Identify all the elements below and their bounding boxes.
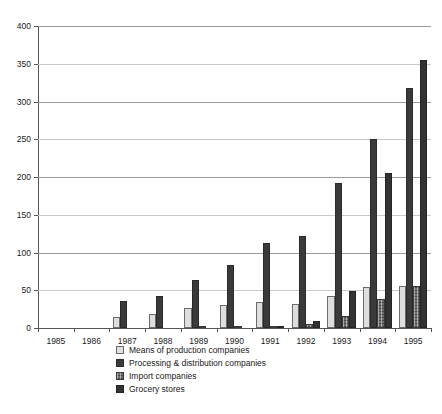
bar-group — [77, 26, 106, 328]
y-tick-label: 300 — [17, 97, 31, 107]
bar-group — [113, 26, 142, 328]
y-tick-label: 200 — [17, 172, 31, 182]
x-tick-mark — [324, 328, 325, 332]
y-tick-mark — [34, 177, 38, 178]
bar — [313, 321, 320, 328]
bar — [277, 326, 284, 328]
bar — [399, 286, 406, 328]
bar — [156, 296, 163, 328]
bar — [420, 60, 427, 328]
x-tick-mark — [288, 328, 289, 332]
x-tick-label: 1994 — [368, 336, 387, 346]
bar — [385, 173, 392, 328]
bar-group — [42, 26, 71, 328]
y-tick-mark — [34, 102, 38, 103]
legend-swatch-icon — [116, 359, 124, 367]
y-tick-label: 50 — [22, 285, 31, 295]
x-tick-mark — [145, 328, 146, 332]
x-tick-mark — [181, 328, 182, 332]
bar — [263, 243, 270, 328]
plot-area: 050100150200250300350400 198519861987198… — [38, 26, 431, 328]
y-tick-label: 100 — [17, 248, 31, 258]
y-tick-mark — [34, 290, 38, 291]
y-tick-mark — [34, 215, 38, 216]
bar — [220, 305, 227, 328]
legend-item: Processing & distribution companies — [116, 357, 266, 369]
y-tick-mark — [34, 253, 38, 254]
legend-label: Import companies — [129, 372, 197, 381]
legend-item: Means of production companies — [116, 344, 266, 356]
legend-swatch-icon — [116, 385, 124, 393]
bar — [363, 287, 370, 328]
bar — [327, 296, 334, 328]
x-tick-mark — [217, 328, 218, 332]
bar-chart: 050100150200250300350400 198519861987198… — [0, 0, 442, 414]
bar-group — [363, 26, 392, 328]
legend-item: Grocery stores — [116, 383, 266, 395]
x-tick-label: 1992 — [296, 336, 315, 346]
legend-label: Means of production companies — [129, 346, 250, 355]
bar — [234, 326, 241, 328]
y-tick-label: 0 — [26, 323, 31, 333]
x-tick-label: 1995 — [404, 336, 423, 346]
y-tick-mark — [34, 64, 38, 65]
x-tick-mark — [395, 328, 396, 332]
x-tick-mark — [431, 328, 432, 332]
y-tick-mark — [34, 139, 38, 140]
bar — [342, 316, 349, 328]
x-tick-label: 1985 — [46, 336, 65, 346]
bar — [227, 265, 234, 328]
bar — [370, 139, 377, 329]
bar — [292, 304, 299, 328]
x-axis-line — [38, 328, 431, 329]
bar — [199, 326, 206, 328]
bar — [192, 280, 199, 328]
bar-group — [327, 26, 356, 328]
bar — [349, 291, 356, 328]
bar — [184, 308, 191, 328]
x-tick-mark — [109, 328, 110, 332]
bar-group — [399, 26, 428, 328]
x-tick-mark — [74, 328, 75, 332]
x-tick-mark — [252, 328, 253, 332]
y-tick-label: 250 — [17, 134, 31, 144]
bar — [120, 301, 127, 328]
bar — [306, 324, 313, 328]
legend-item: Import companies — [116, 370, 266, 382]
legend-label: Grocery stores — [129, 385, 185, 394]
bar-group — [220, 26, 249, 328]
bar — [335, 183, 342, 328]
bar-group — [256, 26, 285, 328]
bar — [377, 299, 384, 328]
bar — [149, 314, 156, 328]
bar — [299, 236, 306, 328]
bar — [113, 317, 120, 328]
chart-legend: Means of production companiesProcessing … — [116, 344, 266, 396]
legend-label: Processing & distribution companies — [129, 359, 266, 368]
y-tick-label: 400 — [17, 21, 31, 31]
x-tick-mark — [38, 328, 39, 332]
bar-group — [292, 26, 321, 328]
bar — [270, 326, 277, 328]
y-tick-label: 350 — [17, 59, 31, 69]
legend-swatch-icon — [116, 346, 124, 354]
y-tick-mark — [34, 26, 38, 27]
legend-swatch-icon — [116, 372, 124, 380]
x-tick-label: 1986 — [82, 336, 101, 346]
bar-group — [149, 26, 178, 328]
x-tick-mark — [360, 328, 361, 332]
bar-group — [184, 26, 213, 328]
y-tick-label: 150 — [17, 210, 31, 220]
bar — [406, 88, 413, 328]
x-tick-label: 1993 — [332, 336, 351, 346]
bar — [256, 302, 263, 328]
bar — [413, 286, 420, 328]
